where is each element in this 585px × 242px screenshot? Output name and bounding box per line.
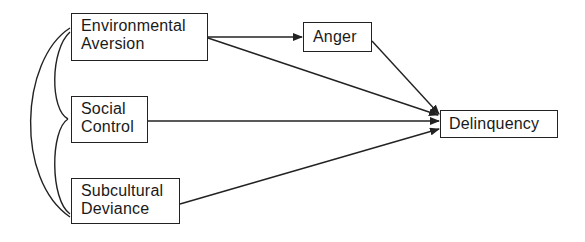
- node-label: Anger: [313, 28, 371, 46]
- node-environmental-aversion: Environmental Aversion: [71, 13, 208, 61]
- node-label: Social: [81, 100, 147, 118]
- node-label: Environmental: [81, 17, 207, 35]
- node-label: Subcultural: [81, 182, 179, 200]
- node-anger: Anger: [303, 22, 372, 52]
- arrow-sd-delinquency: [180, 129, 439, 204]
- node-label: Control: [81, 118, 147, 136]
- node-social-control: Social Control: [71, 96, 148, 143]
- node-delinquency: Delinquency: [440, 110, 558, 138]
- node-label: Aversion: [81, 35, 207, 53]
- corr-sc-sd: [55, 119, 70, 214]
- node-label: Delinquency: [449, 115, 557, 133]
- corr-ea-sc: [55, 32, 70, 119]
- arrow-anger-delinquency: [372, 41, 439, 114]
- node-subcultural-deviance: Subcultural Deviance: [71, 178, 180, 224]
- node-label: Deviance: [81, 200, 179, 218]
